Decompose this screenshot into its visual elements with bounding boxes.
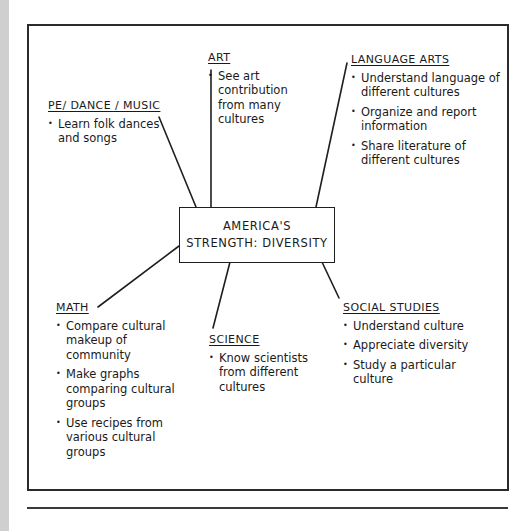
list-item: Organize and report information xyxy=(351,105,501,134)
node-list-social-studies: Understand culture Appreciate diversity … xyxy=(343,319,493,387)
list-item: Study a particular culture xyxy=(343,358,493,387)
central-concept-line1: AMERICA'S xyxy=(223,218,291,235)
list-item: Learn folk dances and songs xyxy=(48,117,168,146)
node-list-art: See art contribution from many cultures xyxy=(208,69,318,127)
page-edge-strip xyxy=(0,0,9,531)
node-list-language-arts: Understand language of different culture… xyxy=(351,71,501,168)
list-item: Make graphs comparing cultural groups xyxy=(56,367,186,411)
node-heading-social-studies: SOCIAL STUDIES xyxy=(343,301,440,316)
node-list-science: Know scientists from different cultures xyxy=(209,351,319,395)
node-heading-pe-dance-music: PE/ DANCE / MUSIC xyxy=(48,99,160,114)
list-item: Know scientists from different cultures xyxy=(209,351,319,395)
central-concept-box: AMERICA'S STRENGTH: DIVERSITY xyxy=(179,207,335,263)
list-item: Appreciate diversity xyxy=(343,338,493,353)
node-list-math: Compare cultural makeup of community Mak… xyxy=(56,319,186,460)
list-item: Compare cultural makeup of community xyxy=(56,319,186,363)
node-list-pe-dance-music: Learn folk dances and songs xyxy=(48,117,168,146)
list-item: Understand culture xyxy=(343,319,493,334)
list-item: See art contribution from many cultures xyxy=(208,69,318,127)
list-item: Understand language of different culture… xyxy=(351,71,501,100)
node-pe-dance-music: PE/ DANCE / MUSIC Learn folk dances and … xyxy=(48,98,168,151)
node-heading-science: SCIENCE xyxy=(209,333,260,348)
node-language-arts: LANGUAGE ARTS Understand language of dif… xyxy=(351,52,501,173)
central-concept-line2: STRENGTH: DIVERSITY xyxy=(186,235,327,252)
list-item: Share literature of different cultures xyxy=(351,139,501,168)
node-science: SCIENCE Know scientists from different c… xyxy=(209,332,319,399)
node-heading-art: ART xyxy=(208,51,230,66)
bottom-rule xyxy=(27,507,508,509)
node-art: ART See art contribution from many cultu… xyxy=(208,50,318,132)
node-heading-math: MATH xyxy=(56,301,89,316)
list-item: Use recipes from various cultural groups xyxy=(56,416,186,460)
node-math: MATH Compare cultural makeup of communit… xyxy=(56,300,186,464)
node-social-studies: SOCIAL STUDIES Understand culture Apprec… xyxy=(343,300,493,392)
node-heading-language-arts: LANGUAGE ARTS xyxy=(351,53,449,68)
